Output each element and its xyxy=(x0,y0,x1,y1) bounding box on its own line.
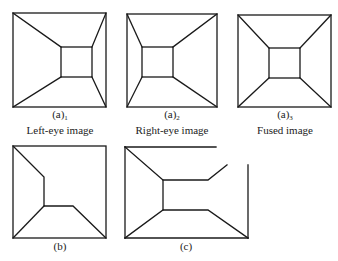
label-b: (b) xyxy=(54,240,67,252)
caption-text-a3: Fused image xyxy=(235,124,335,136)
caption-text-a2: Right-eye image xyxy=(122,124,222,136)
label-a2: (a) xyxy=(164,108,176,120)
label-a1: (a) xyxy=(52,108,64,120)
caption-text-a1: Left-eye image xyxy=(10,124,110,136)
subscript-a1: 1 xyxy=(64,114,68,122)
label-c: (c) xyxy=(180,240,192,252)
caption-a1: (a)1 Left-eye image xyxy=(10,108,110,136)
panel-a2-right-eye-figure xyxy=(127,14,217,107)
caption-a2: (a)2 Right-eye image xyxy=(122,108,222,136)
panel-a1-left-eye-figure xyxy=(13,13,106,107)
panel-b-figure xyxy=(13,146,106,238)
caption-b: (b) xyxy=(10,240,110,252)
caption-a3: (a)3 Fused image xyxy=(235,108,335,136)
panel-c-figure xyxy=(125,147,248,238)
caption-c: (c) xyxy=(136,240,236,252)
panel-a3-fused-figure xyxy=(238,15,331,107)
subscript-a2: 2 xyxy=(176,114,180,122)
label-a3: (a) xyxy=(277,108,289,120)
subscript-a3: 3 xyxy=(289,114,293,122)
